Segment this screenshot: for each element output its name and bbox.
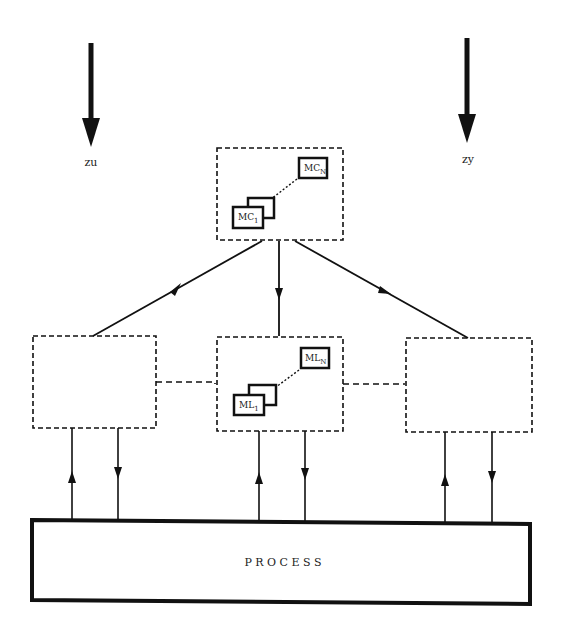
diagram-canvas: zu zy MCN MC1 MLN ML1: [0, 0, 562, 638]
input-label-zy: zy: [462, 153, 475, 166]
process-label: P R O C E S S: [244, 556, 321, 569]
input-arrow-zy: [458, 38, 476, 143]
local-controller-left: [33, 336, 156, 428]
input-arrow-zu: [82, 43, 100, 147]
process-box: P R O C E S S: [32, 520, 530, 604]
local-controller-right: [406, 338, 532, 432]
interaction-links: [156, 382, 405, 384]
input-label-zu: zu: [85, 156, 98, 169]
coordinator-box: MCN MC1: [217, 148, 343, 240]
local-controller-center: MLN ML1: [217, 337, 343, 431]
process-signals: [68, 428, 496, 523]
coordination-links: [93, 241, 468, 338]
